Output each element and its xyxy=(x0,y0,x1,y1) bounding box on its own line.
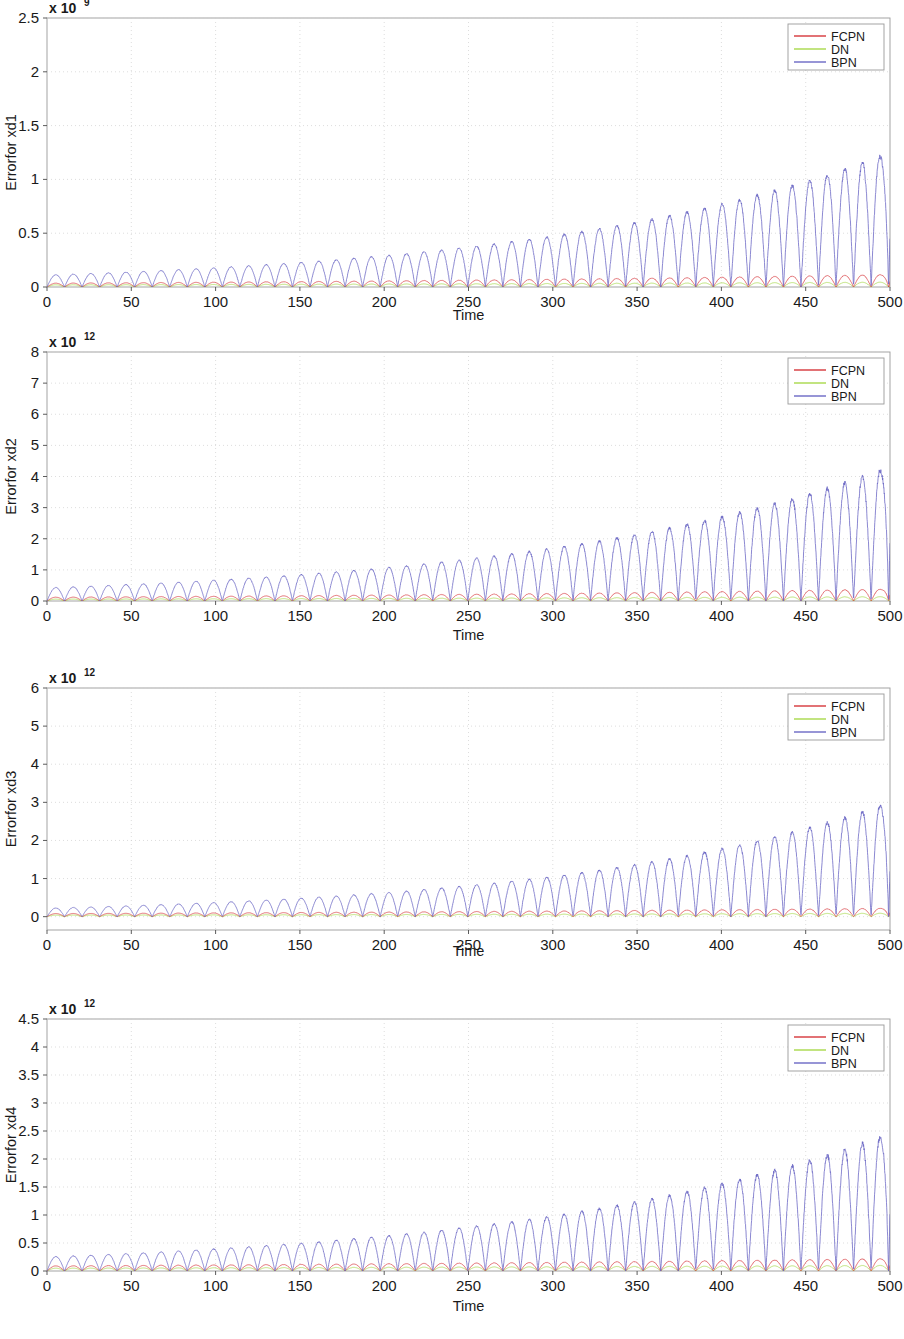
legend: FCPNDNBPN xyxy=(788,694,884,740)
xtick-label: 0 xyxy=(43,607,51,624)
legend-label-fcpn: FCPN xyxy=(831,1031,865,1045)
xtick-label: 400 xyxy=(709,936,734,953)
xtick-label: 200 xyxy=(372,1277,397,1294)
xtick-label: 350 xyxy=(625,293,650,310)
ytick-label: 3 xyxy=(31,499,39,516)
ytick-label: 8 xyxy=(31,343,39,360)
xtick-label: 450 xyxy=(793,607,818,624)
xtick-label: 50 xyxy=(123,607,140,624)
xtick-label: 250 xyxy=(456,1277,481,1294)
xtick-label: 400 xyxy=(709,1277,734,1294)
xtick-label: 100 xyxy=(203,936,228,953)
y-axis-title: Errorfor xd3 xyxy=(3,771,19,848)
legend-label-bpn: BPN xyxy=(831,56,857,70)
exponent-mantissa: x 10 xyxy=(49,334,76,350)
legend: FCPNDNBPN xyxy=(788,1025,884,1071)
legend-label-bpn: BPN xyxy=(831,1057,857,1071)
legend-label-bpn: BPN xyxy=(831,726,857,740)
xtick-label: 250 xyxy=(456,607,481,624)
ytick-label: 2.5 xyxy=(18,1122,39,1139)
chart-canvas-2: 050100150200250300350400450500012345678x… xyxy=(0,330,904,662)
ytick-label: 4.5 xyxy=(18,1010,39,1027)
ytick-label: 1 xyxy=(31,870,39,887)
xtick-label: 50 xyxy=(123,1277,140,1294)
chart-panel-4: 05010015020025030035040045050000.511.522… xyxy=(0,995,904,1339)
xtick-label: 450 xyxy=(793,293,818,310)
ytick-label: 2 xyxy=(31,831,39,848)
ytick-label: 1 xyxy=(31,170,39,187)
xtick-label: 100 xyxy=(203,607,228,624)
x-axis-title: Time xyxy=(453,943,485,959)
xtick-label: 50 xyxy=(123,936,140,953)
y-axis-exponent: x 109 xyxy=(49,0,90,16)
exponent-mantissa: x 10 xyxy=(49,1001,76,1017)
xtick-label: 350 xyxy=(625,1277,650,1294)
exponent-power: 9 xyxy=(84,0,90,8)
xtick-label: 150 xyxy=(287,936,312,953)
y-axis-exponent: x 1012 xyxy=(49,331,96,350)
xtick-label: 200 xyxy=(372,293,397,310)
xtick-label: 200 xyxy=(372,936,397,953)
legend-label-fcpn: FCPN xyxy=(831,700,865,714)
legend-label-dn: DN xyxy=(831,377,849,391)
xtick-label: 100 xyxy=(203,293,228,310)
xtick-label: 350 xyxy=(625,607,650,624)
xtick-label: 150 xyxy=(287,293,312,310)
xtick-label: 350 xyxy=(625,936,650,953)
chart-canvas-1: 05010015020025030035040045050000.511.522… xyxy=(0,0,904,330)
ytick-label: 2 xyxy=(31,530,39,547)
ytick-label: 3 xyxy=(31,793,39,810)
legend-label-fcpn: FCPN xyxy=(831,364,865,378)
y-axis-title: Errorfor xd4 xyxy=(3,1107,19,1184)
xtick-label: 500 xyxy=(877,936,902,953)
ytick-label: 1.5 xyxy=(18,1178,39,1195)
legend-label-fcpn: FCPN xyxy=(831,30,865,44)
xtick-label: 300 xyxy=(540,293,565,310)
y-axis-title: Errorfor xd1 xyxy=(3,114,19,191)
chart-panel-3: 0501001502002503003504004505000123456x 1… xyxy=(0,662,904,995)
chart-canvas-3: 0501001502002503003504004505000123456x 1… xyxy=(0,662,904,995)
exponent-power: 12 xyxy=(84,998,96,1009)
xtick-label: 300 xyxy=(540,936,565,953)
ytick-label: 0.5 xyxy=(18,224,39,241)
xtick-label: 500 xyxy=(877,293,902,310)
ytick-label: 3.5 xyxy=(18,1066,39,1083)
x-axis-title: Time xyxy=(453,1298,485,1314)
xtick-label: 0 xyxy=(43,936,51,953)
xtick-label: 300 xyxy=(540,1277,565,1294)
ytick-label: 2 xyxy=(31,1150,39,1167)
exponent-mantissa: x 10 xyxy=(49,0,76,16)
ytick-label: 1.5 xyxy=(18,117,39,134)
xtick-label: 500 xyxy=(877,607,902,624)
ytick-label: 4 xyxy=(31,468,39,485)
x-axis-title: Time xyxy=(453,307,485,323)
ytick-label: 1 xyxy=(31,1206,39,1223)
y-axis-exponent: x 1012 xyxy=(49,998,96,1017)
xtick-label: 450 xyxy=(793,936,818,953)
legend-label-bpn: BPN xyxy=(831,390,857,404)
xtick-label: 200 xyxy=(372,607,397,624)
xtick-label: 300 xyxy=(540,607,565,624)
xtick-label: 0 xyxy=(43,1277,51,1294)
legend-label-dn: DN xyxy=(831,43,849,57)
xtick-label: 400 xyxy=(709,293,734,310)
x-axis-title: Time xyxy=(453,627,485,643)
y-axis-title: Errorfor xd2 xyxy=(3,438,19,515)
ytick-label: 0 xyxy=(31,592,39,609)
xtick-label: 150 xyxy=(287,607,312,624)
ytick-label: 5 xyxy=(31,436,39,453)
ytick-label: 0 xyxy=(31,908,39,925)
chart-panel-2: 050100150200250300350400450500012345678x… xyxy=(0,330,904,662)
legend-label-dn: DN xyxy=(831,713,849,727)
exponent-mantissa: x 10 xyxy=(49,670,76,686)
exponent-power: 12 xyxy=(84,331,96,342)
xtick-label: 150 xyxy=(287,1277,312,1294)
ytick-label: 0 xyxy=(31,1262,39,1279)
ytick-label: 4 xyxy=(31,755,39,772)
ytick-label: 6 xyxy=(31,405,39,422)
ytick-label: 4 xyxy=(31,1038,39,1055)
chart-canvas-4: 05010015020025030035040045050000.511.522… xyxy=(0,995,904,1339)
xtick-label: 450 xyxy=(793,1277,818,1294)
xtick-label: 0 xyxy=(43,293,51,310)
xtick-label: 100 xyxy=(203,1277,228,1294)
